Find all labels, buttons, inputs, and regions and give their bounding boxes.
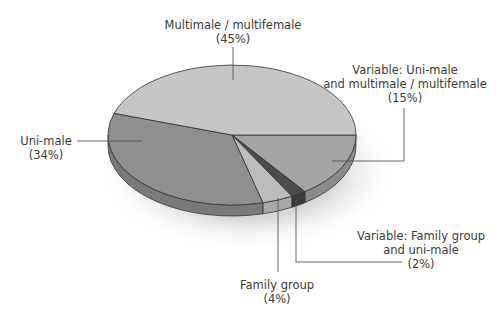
label-uni-male: Uni-male (34%): [20, 134, 72, 162]
label-family-group: Family group (4%): [240, 278, 314, 306]
pie-chart: [0, 0, 502, 321]
label-variable-family-uni: Variable: Family group and uni-male (2%): [357, 229, 485, 271]
pie-slices: [108, 65, 356, 205]
label-variable-uni-multi: Variable: Uni-male and multimale / multi…: [323, 63, 486, 105]
label-multimale: Multimale / multifemale (45%): [165, 18, 302, 46]
